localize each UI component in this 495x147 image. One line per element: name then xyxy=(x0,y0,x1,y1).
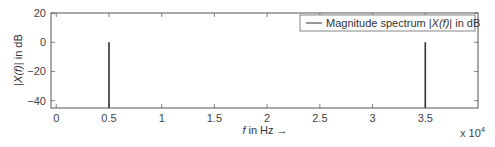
x-tick-label: 3 xyxy=(370,112,376,124)
x-tick-label: 2.5 xyxy=(312,112,327,124)
y-axis-label: |X(f)| in dB xyxy=(12,34,24,86)
x-axis-multiplier: x 104 xyxy=(460,125,486,139)
x-tick-label: 3.5 xyxy=(418,112,433,124)
x-axis-label: f in Hz → xyxy=(242,124,287,136)
x-tick-label: 0.5 xyxy=(101,112,116,124)
data-series-stems xyxy=(109,42,425,108)
y-tick-labels: 200−20−40 xyxy=(27,7,46,107)
x-tick-labels: 00.511.522.533.5 xyxy=(53,112,433,124)
y-tick-label: −20 xyxy=(27,65,46,77)
y-tick-label: 20 xyxy=(34,7,46,19)
x-tick-label: 2 xyxy=(264,112,270,124)
x-tick-label: 0 xyxy=(53,112,59,124)
x-tick-label: 1.5 xyxy=(207,112,222,124)
chart: 200−20−40 00.511.522.533.5 Magnitude spe… xyxy=(0,0,495,147)
legend-label: Magnitude spectrum |X(f)| in dB xyxy=(326,17,480,29)
x-tick-label: 1 xyxy=(159,112,165,124)
legend: Magnitude spectrum |X(f)| in dB xyxy=(300,15,480,31)
y-tick-label: 0 xyxy=(40,36,46,48)
y-tick-label: −40 xyxy=(27,95,46,107)
